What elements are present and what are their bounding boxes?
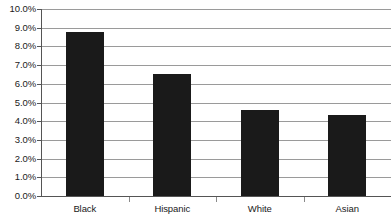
bar-slot [129, 9, 217, 196]
x-tick-label: Asian [336, 203, 359, 215]
y-tick-label: 9.0% [0, 23, 36, 33]
y-tick-label: 8.0% [0, 41, 36, 51]
bar-slot [216, 9, 304, 196]
y-axis: 0.0%1.0%2.0%3.0%4.0%5.0%6.0%7.0%8.0%9.0%… [0, 0, 36, 224]
bar-slot [41, 9, 129, 196]
y-tick-mark [37, 177, 42, 178]
bar[interactable] [153, 74, 191, 196]
y-tick-mark [37, 103, 42, 104]
x-tick-label: Black [73, 203, 96, 215]
x-tick-mark [216, 197, 217, 202]
y-tick-label: 3.0% [0, 135, 36, 145]
x-axis: BlackHispanicWhiteAsian [41, 203, 391, 221]
y-tick-label: 0.0% [0, 191, 36, 201]
x-tick-label: White [248, 203, 272, 215]
y-tick-mark [37, 159, 42, 160]
bars [41, 9, 391, 196]
y-tick-label: 4.0% [0, 116, 36, 126]
y-tick-label: 5.0% [0, 98, 36, 108]
y-tick-label: 7.0% [0, 60, 36, 70]
y-tick-label: 10.0% [0, 4, 36, 14]
y-tick-label: 6.0% [0, 79, 36, 89]
x-tick-mark [129, 197, 130, 202]
y-tick-mark [37, 140, 42, 141]
y-tick-mark [37, 196, 42, 197]
y-tick-mark [37, 46, 42, 47]
plot-area [41, 9, 391, 196]
bar[interactable] [66, 32, 104, 196]
y-tick-mark [37, 121, 42, 122]
y-tick-mark [37, 28, 42, 29]
bar[interactable] [328, 115, 366, 196]
bar[interactable] [241, 110, 279, 196]
bar-slot [304, 9, 391, 196]
x-tick-mark [304, 197, 305, 202]
bar-chart: 0.0%1.0%2.0%3.0%4.0%5.0%6.0%7.0%8.0%9.0%… [0, 0, 391, 224]
y-tick-label: 1.0% [0, 172, 36, 182]
y-tick-mark [37, 9, 42, 10]
y-tick-mark [37, 65, 42, 66]
y-tick-mark [37, 84, 42, 85]
y-tick-label: 2.0% [0, 154, 36, 164]
x-tick-label: Hispanic [154, 203, 190, 215]
